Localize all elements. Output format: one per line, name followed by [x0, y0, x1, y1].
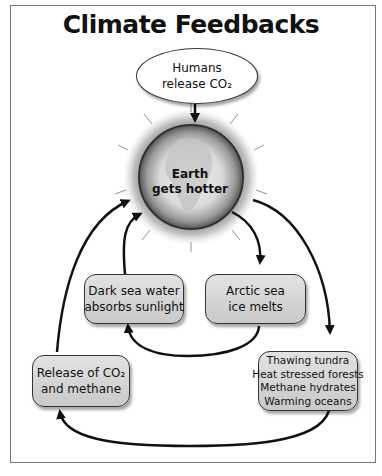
node-text: absorbs sunlight — [84, 299, 183, 315]
node-humans-release-co2: Humans release CO₂ — [136, 48, 258, 104]
node-earth-gets-hotter: Earth gets hotter — [140, 167, 240, 197]
arrow-arctic-to-darksea — [128, 326, 259, 356]
node-text: Thawing tundra — [267, 354, 350, 368]
node-text: Arctic sea — [226, 283, 285, 299]
node-text: gets hotter — [140, 182, 240, 197]
node-text: release CO₂ — [162, 76, 232, 92]
node-text: Warming oceans — [264, 395, 351, 409]
node-text: and methane — [41, 381, 121, 397]
node-dark-sea-water: Dark sea water absorbs sunlight — [84, 274, 184, 324]
node-text: Release of CO₂ — [37, 365, 126, 381]
node-thawing-tundra: Thawing tundra Heat stressed forests Met… — [258, 351, 358, 411]
node-text: Heat stressed forests — [252, 368, 364, 382]
node-text: ice melts — [228, 299, 283, 315]
arrow-thawing-to-release — [60, 406, 330, 446]
node-text: Dark sea water — [88, 283, 179, 299]
node-text: Methane hydrates — [260, 381, 356, 395]
node-text: Earth — [140, 167, 240, 182]
node-release-co2-methane: Release of CO₂ and methane — [32, 355, 130, 407]
node-text: Humans — [172, 60, 222, 76]
arrow-darksea-to-earth — [124, 214, 140, 274]
node-arctic-sea-ice: Arctic sea ice melts — [205, 274, 306, 324]
